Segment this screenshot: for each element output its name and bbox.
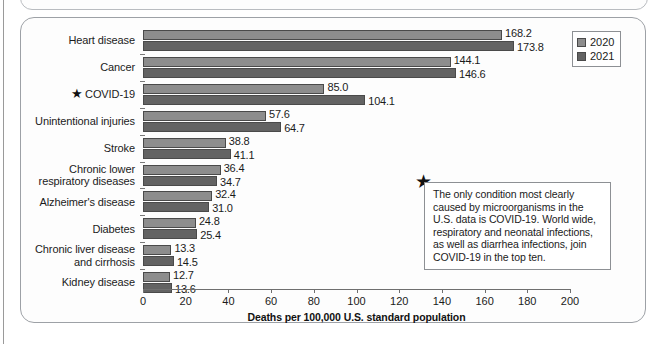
legend-swatch-2020: [577, 38, 586, 47]
axis-tick-label: 160: [475, 295, 493, 307]
bar-value-label: 36.4: [224, 163, 245, 174]
star-icon: ★: [71, 86, 83, 101]
axis-tick: [442, 289, 443, 293]
axis-tick: [186, 289, 187, 293]
category-label: Kidney disease: [62, 276, 135, 289]
bar-value-label: 12.7: [173, 270, 194, 281]
bar-2020: [143, 245, 171, 255]
category-axis-tick: [140, 269, 145, 270]
axis-tick-label: 120: [390, 295, 408, 307]
bar-2021: [143, 41, 514, 51]
bar-2021: [143, 176, 217, 186]
bar-2020: [143, 272, 170, 282]
chart-legend: 2020 2021: [572, 31, 621, 67]
axis-tick: [399, 289, 400, 293]
bar-value-label: 41.1: [234, 150, 255, 161]
bar-2021: [143, 95, 365, 105]
callout-box: The only condition most clearly caused b…: [424, 182, 611, 270]
bar-value-label: 85.0: [327, 82, 348, 93]
bar-2021: [143, 256, 174, 266]
category-label: Alzheimer's disease: [39, 196, 135, 209]
bar-value-label: 57.6: [269, 109, 290, 120]
bar-2021: [143, 149, 231, 159]
axis-tick-label: 180: [518, 295, 536, 307]
legend-label-2020: 2020: [590, 37, 614, 48]
axis-tick: [271, 289, 272, 293]
bar-value-label: 31.0: [212, 203, 233, 214]
bar-2020: [143, 84, 324, 94]
bar-value-label: 144.1: [454, 55, 481, 66]
axis-title: Deaths per 100,000 U.S. standard populat…: [143, 311, 570, 323]
legend-item-2021: 2021: [577, 49, 614, 63]
category-label: Diabetes: [92, 223, 135, 236]
axis-tick: [357, 289, 358, 293]
bar-value-label: 168.2: [505, 28, 532, 39]
bar-2020: [143, 165, 221, 175]
bar-2020: [143, 111, 266, 121]
category-label: Cancer: [100, 61, 135, 74]
category-label: Unintentional injuries: [35, 115, 135, 128]
axis-tick: [485, 289, 486, 293]
axis-tick: [570, 289, 571, 293]
axis-tick-label: 40: [222, 295, 234, 307]
bar-value-label: 146.6: [459, 69, 486, 80]
legend-label-2021: 2021: [590, 51, 614, 62]
bar-value-label: 24.8: [199, 216, 220, 227]
category-axis-tick: [140, 162, 145, 163]
bar-value-label: 34.7: [220, 177, 241, 188]
category-axis-tick: [140, 188, 145, 189]
bar-2020: [143, 191, 212, 201]
bar-2021: [143, 68, 456, 78]
axis-tick: [314, 289, 315, 293]
category-axis-tick: [140, 215, 145, 216]
category-axis-tick: [140, 54, 145, 55]
bar-value-label: 104.1: [368, 96, 395, 107]
category-label: Stroke: [104, 142, 135, 155]
bar-chart: Heart disease168.2173.8Cancer144.1146.6★…: [0, 0, 664, 344]
bar-value-label: 25.4: [200, 230, 221, 241]
legend-swatch-2021: [577, 52, 586, 61]
bar-value-label: 173.8: [517, 42, 544, 53]
bar-2021: [143, 202, 209, 212]
bar-value-label: 38.8: [229, 136, 250, 147]
bar-2020: [143, 218, 196, 228]
bar-2020: [143, 30, 502, 40]
axis-tick-label: 60: [265, 295, 277, 307]
bar-2020: [143, 138, 226, 148]
category-label: Chronic liver disease and cirrhosis: [35, 243, 135, 268]
axis-tick-label: 80: [308, 295, 320, 307]
bar-value-label: 13.3: [174, 243, 195, 254]
bar-value-label: 32.4: [215, 189, 236, 200]
bar-value-label: 14.5: [177, 257, 198, 268]
legend-item-2020: 2020: [577, 35, 614, 49]
axis-tick-label: 200: [561, 295, 579, 307]
bar-value-label: 64.7: [284, 123, 305, 134]
bar-2021: [143, 122, 281, 132]
bar-2021: [143, 229, 197, 239]
axis-tick-label: 140: [433, 295, 451, 307]
axis-tick: [228, 289, 229, 293]
category-axis-tick: [140, 81, 145, 82]
axis-tick-label: 0: [140, 295, 146, 307]
category-label: ★COVID-19: [71, 88, 135, 101]
axis-tick: [527, 289, 528, 293]
category-label: Chronic lower respiratory diseases: [39, 163, 135, 188]
axis-tick: [143, 289, 144, 293]
axis-tick-label: 100: [347, 295, 365, 307]
category-axis-tick: [140, 135, 145, 136]
category-label: Heart disease: [68, 34, 135, 47]
axis-tick-label: 20: [180, 295, 192, 307]
callout-text: The only condition most clearly caused b…: [433, 188, 603, 264]
bar-2020: [143, 57, 451, 67]
category-axis-tick: [140, 242, 145, 243]
category-axis-tick: [140, 108, 145, 109]
